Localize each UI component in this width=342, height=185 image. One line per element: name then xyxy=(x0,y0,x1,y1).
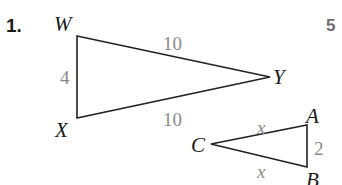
side-label-cb: x xyxy=(257,162,265,181)
side-label-wx: 4 xyxy=(60,68,70,87)
side-label-xy: 10 xyxy=(163,110,182,129)
side-label-wy: 10 xyxy=(163,34,182,53)
vertex-label-a: A xyxy=(306,106,319,127)
vertex-label-c: C xyxy=(191,135,205,156)
vertex-label-y: Y xyxy=(273,67,285,88)
triangles-figure xyxy=(0,0,342,185)
vertex-label-b: B xyxy=(306,170,319,185)
vertex-label-w: W xyxy=(54,14,72,35)
vertex-label-x: X xyxy=(55,120,68,141)
side-label-ab: 2 xyxy=(314,139,324,158)
side-label-ca: x xyxy=(257,118,265,137)
geometry-problem: 1. 5 W Y X 4 10 10 C A B x x 2 xyxy=(0,0,342,185)
